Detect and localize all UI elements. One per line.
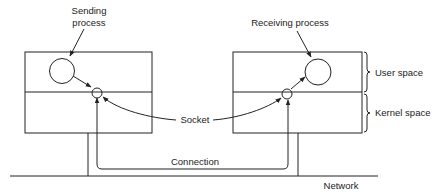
sending-process-label-line2: process	[72, 17, 106, 28]
network-label: Network	[324, 180, 359, 191]
socket-callout-right	[213, 98, 281, 120]
process-to-socket-arrow	[73, 76, 91, 87]
receiving-host	[233, 31, 362, 133]
kernel-space-label: Kernel space	[375, 107, 430, 118]
socket-to-process-arrow	[291, 77, 305, 89]
sending-socket-circle	[92, 88, 102, 98]
space-braces	[364, 52, 370, 132]
socket-callout-left	[103, 97, 176, 120]
socket-connection-diagram: Sending process Receiving process User s…	[0, 0, 436, 194]
receiving-process-circle	[305, 59, 331, 85]
user-space-brace	[364, 52, 370, 92]
sending-process-circle	[50, 59, 75, 84]
kernel-space-brace	[364, 94, 370, 132]
user-space-label: User space	[375, 67, 423, 78]
connection-label: Connection	[171, 156, 219, 167]
receiving-process-label: Receiving process	[251, 17, 329, 28]
receiving-socket-circle	[282, 89, 292, 99]
sending-process-label-line1: Sending	[72, 5, 107, 16]
sending-host	[25, 29, 152, 133]
receiving-process-pointer	[297, 31, 311, 57]
socket-label: Socket	[180, 114, 209, 125]
